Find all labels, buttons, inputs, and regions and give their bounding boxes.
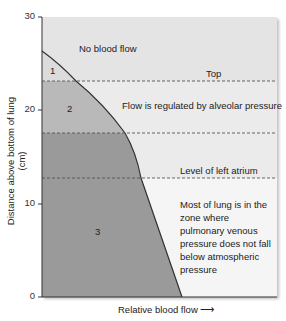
y-tick-label-30: 30 xyxy=(19,10,35,21)
y-axis-label: Distance above bottom of lung (cm) xyxy=(5,91,27,231)
left-atrium-label: Level of left atrium xyxy=(180,165,258,177)
y-tick-label-0: 0 xyxy=(19,290,35,301)
no-flow-region xyxy=(42,17,277,81)
top-label: Top xyxy=(206,68,221,80)
zones-of-lung-diagram: 30 20 10 0 Distance above bottom of lung… xyxy=(0,0,286,321)
flow-regulated-label: Flow is regulated by alveolar pressure xyxy=(122,100,282,112)
zone-1-label: 1 xyxy=(50,65,55,77)
x-axis-label: Relative blood flow ⟶ xyxy=(118,304,214,315)
most-lung-label: Most of lung is in the zone where pulmon… xyxy=(180,198,275,276)
zone-3-label: 3 xyxy=(95,226,100,238)
no-blood-flow-label: No blood flow xyxy=(79,43,137,55)
zone-2-label: 2 xyxy=(67,103,72,115)
